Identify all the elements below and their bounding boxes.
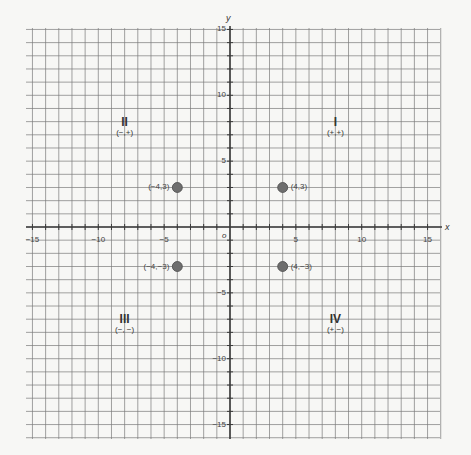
quadrant-label-i: I(+,+) [327, 116, 344, 138]
y-tick-label: −10 [212, 355, 226, 363]
quadrant-numeral: I [327, 116, 344, 128]
quadrant-numeral: II [116, 116, 133, 128]
y-axis-label: y [226, 13, 231, 23]
origin-label: o [222, 231, 226, 240]
x-tick-label: −5 [160, 236, 169, 244]
y-tick-label: −5 [217, 289, 226, 297]
quadrant-signs: (−, −) [115, 325, 134, 335]
data-point [172, 262, 182, 272]
x-axis-label: x [445, 222, 450, 232]
grid [0, 0, 471, 455]
quadrant-label-ii: II(−,+) [116, 116, 133, 138]
quadrant-label-iii: III(−, −) [115, 313, 134, 335]
point-label: (−4,3) [148, 183, 169, 191]
x-tick-label: 10 [357, 236, 366, 244]
data-point [278, 262, 288, 272]
y-tick-label: 10 [217, 91, 226, 99]
x-tick-label: −10 [92, 236, 106, 244]
quadrant-signs: (−,+) [116, 128, 133, 138]
quadrant-numeral: III [115, 313, 134, 325]
y-tick-label: −15 [212, 421, 226, 429]
y-tick-label: 15 [217, 25, 226, 33]
coordinate-plane: x y o −15−10−55101515105−5−10−15(−4,3)(4… [0, 0, 471, 455]
quadrant-signs: (+,+) [327, 128, 344, 138]
x-tick-label: 15 [423, 236, 432, 244]
data-point [172, 182, 182, 192]
quadrant-label-iv: IV(+,−) [327, 313, 344, 335]
point-label: (−4,−3) [144, 263, 170, 271]
point-label: (4,−3) [291, 263, 312, 271]
quadrant-signs: (+,−) [327, 325, 344, 335]
x-tick-label: −15 [26, 236, 40, 244]
data-point [278, 182, 288, 192]
y-tick-label: 5 [222, 157, 226, 165]
point-label: (4,3) [291, 183, 307, 191]
x-tick-label: 5 [294, 236, 298, 244]
quadrant-numeral: IV [327, 313, 344, 325]
